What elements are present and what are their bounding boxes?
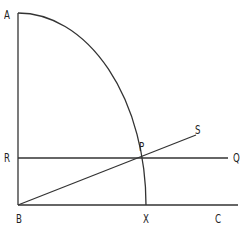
geometry-diagram <box>0 0 243 227</box>
arc-ax <box>18 13 146 205</box>
label-q: Q <box>233 152 240 164</box>
label-x: X <box>143 213 149 225</box>
segment-bs <box>18 135 196 205</box>
label-p: P <box>139 141 144 153</box>
label-r: R <box>4 152 10 164</box>
label-b: B <box>16 213 22 225</box>
label-s: S <box>195 124 200 136</box>
label-a: A <box>4 9 10 21</box>
label-c: C <box>215 213 221 225</box>
